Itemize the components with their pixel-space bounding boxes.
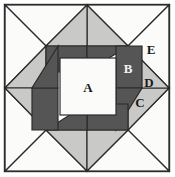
piece-label-b: B: [124, 61, 133, 76]
piece-label-a: A: [83, 80, 93, 95]
piece-label-c: C: [135, 95, 144, 110]
quilt-block-figure: A B C D E: [0, 0, 175, 177]
piece-label-e: E: [147, 42, 156, 57]
pinwheel-arm-left-bar: [32, 88, 58, 130]
piece-label-d: D: [144, 75, 153, 90]
quilt-block-svg: A B C D E: [0, 0, 175, 177]
